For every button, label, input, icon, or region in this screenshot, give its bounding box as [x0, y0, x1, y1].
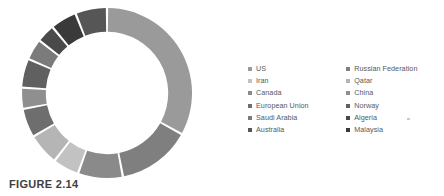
legend-label: European Union — [256, 102, 309, 110]
scan-speck-artifact — [407, 118, 410, 120]
legend-label: Australia — [256, 126, 284, 134]
donut-slice-us[interactable] — [108, 8, 192, 133]
legend-item-china[interactable]: China — [346, 87, 440, 99]
legend-item-algeria[interactable]: Algeria — [346, 112, 440, 124]
legend-item-saudi-arabia[interactable]: Saudi Arabia — [248, 112, 324, 124]
legend-item-qatar[interactable]: Qatar — [346, 75, 440, 87]
legend-label: Malaysia — [354, 126, 383, 134]
legend-label: Saudi Arabia — [256, 114, 297, 122]
legend-swatch-icon — [346, 67, 350, 71]
donut-slice-russian-federation[interactable] — [119, 123, 181, 176]
legend-label: Russian Federation — [354, 65, 417, 73]
legend-item-european-union[interactable]: European Union — [248, 100, 324, 112]
donut-chart-svg — [19, 5, 195, 181]
donut-slice-canada[interactable] — [79, 151, 121, 178]
legend-swatch-icon — [248, 116, 252, 120]
figure-2-14: US Iran Canada European Union Saudi Arab… — [0, 0, 444, 196]
legend-item-australia[interactable]: Australia — [248, 124, 324, 136]
legend-swatch-icon — [248, 128, 252, 132]
legend-swatch-icon — [346, 91, 350, 95]
legend-item-malaysia[interactable]: Malaysia — [346, 124, 440, 136]
legend-swatch-icon — [248, 104, 252, 108]
chart-legend: US Iran Canada European Union Saudi Arab… — [248, 63, 440, 136]
legend-label: Canada — [256, 89, 281, 97]
legend-column-left: US Iran Canada European Union Saudi Arab… — [248, 63, 324, 136]
legend-swatch-icon — [346, 79, 350, 83]
legend-swatch-icon — [346, 116, 350, 120]
legend-item-us[interactable]: US — [248, 63, 324, 75]
legend-swatch-icon — [248, 67, 252, 71]
legend-label: China — [354, 89, 373, 97]
legend-item-russian-federation[interactable]: Russian Federation — [346, 63, 440, 75]
legend-column-right: Russian Federation Qatar China Norway Al… — [346, 63, 440, 136]
legend-swatch-icon — [248, 79, 252, 83]
legend-label: Iran — [256, 77, 269, 85]
donut-slice-group — [22, 8, 192, 178]
legend-label: US — [256, 65, 266, 73]
figure-caption: FIGURE 2.14 — [9, 178, 78, 190]
legend-swatch-icon — [346, 128, 350, 132]
legend-item-norway[interactable]: Norway — [346, 100, 440, 112]
legend-swatch-icon — [346, 104, 350, 108]
donut-chart — [19, 5, 195, 181]
donut-slice-china[interactable] — [22, 89, 47, 108]
legend-item-iran[interactable]: Iran — [248, 75, 324, 87]
legend-item-canada[interactable]: Canada — [248, 87, 324, 99]
legend-label: Qatar — [354, 77, 372, 85]
legend-swatch-icon — [248, 91, 252, 95]
legend-label: Norway — [354, 102, 379, 110]
legend-label: Algeria — [354, 114, 377, 122]
